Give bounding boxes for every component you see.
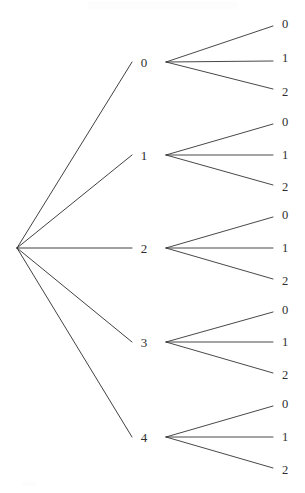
leaf-node-label-3-1: 1 [282, 336, 288, 349]
level1-edge-4 [17, 248, 132, 437]
leaf-node-label-1-0: 0 [282, 116, 288, 129]
leaf-node-label-2-0: 0 [282, 209, 288, 222]
leaf-node-label-2-1: 1 [282, 242, 288, 255]
level2-edge-0-2 [166, 62, 273, 89]
level2-edge-3-2 [166, 342, 273, 373]
level2-edge-3-0 [166, 312, 273, 342]
level2-edge-2-0 [166, 217, 273, 248]
leaf-node-label-1-1: 1 [282, 149, 288, 162]
leaf-node-label-3-2: 2 [282, 369, 288, 382]
leaf-node-label-0-2: 2 [282, 86, 288, 99]
level2-edge-0-0 [166, 26, 273, 62]
level2-edge-4-2 [166, 437, 273, 468]
tree-edges-svg [0, 0, 305, 493]
leaf-node-label-3-0: 0 [282, 304, 288, 317]
level1-node-label-2: 2 [141, 242, 148, 255]
level1-node-label-1: 1 [141, 149, 148, 162]
level1-node-label-3: 3 [141, 336, 148, 349]
level2-edge-4-0 [166, 406, 273, 437]
leaf-node-label-2-2: 2 [282, 275, 288, 288]
level2-edge-2-2 [166, 248, 273, 279]
level2-edge-0-1 [166, 61, 273, 62]
level1-edge-group [17, 62, 132, 437]
tree-diagram: 00121012201230124012 [0, 0, 305, 493]
level1-node-label-4: 4 [141, 431, 148, 444]
level1-node-label-0: 0 [141, 56, 148, 69]
leaf-node-label-4-2: 2 [282, 464, 288, 477]
leaf-node-label-1-2: 2 [282, 181, 288, 194]
level2-edge-1-2 [166, 155, 273, 185]
level1-edge-3 [17, 248, 132, 342]
leaf-node-label-0-0: 0 [282, 18, 288, 31]
leaf-node-label-4-0: 0 [282, 398, 288, 411]
leaf-node-label-0-1: 1 [282, 52, 288, 65]
level2-edge-group [166, 26, 273, 468]
level1-edge-1 [17, 155, 132, 248]
level1-edge-0 [17, 62, 132, 248]
leaf-node-label-4-1: 1 [282, 431, 288, 444]
level2-edge-1-0 [166, 124, 273, 155]
